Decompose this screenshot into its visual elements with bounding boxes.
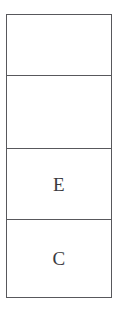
table-row: E <box>7 149 112 220</box>
table-body: E C <box>7 15 112 298</box>
table-row <box>7 76 112 149</box>
table-container: E C <box>6 14 112 297</box>
table-cell-row-1 <box>7 15 112 76</box>
table-cell-row-4: C <box>7 220 112 298</box>
table-row <box>7 15 112 76</box>
table-cell-row-2 <box>7 76 112 149</box>
single-column-table: E C <box>6 14 112 298</box>
table-row: C <box>7 220 112 298</box>
table-cell-row-3: E <box>7 149 112 220</box>
page-root: E C <box>0 0 118 312</box>
cell-value: C <box>52 249 65 268</box>
cell-value: E <box>53 175 65 194</box>
